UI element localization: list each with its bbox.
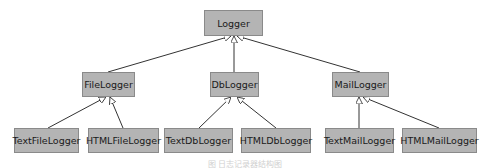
class-dblogger: DbLogger: [210, 72, 259, 97]
class-label: FileLogger: [84, 79, 133, 90]
class-label: HTMLDbLogger: [240, 135, 313, 146]
class-htmlmaillogger: HTMLMailLogger: [402, 128, 477, 153]
class-maillogger: MailLogger: [332, 72, 389, 97]
class-label: MailLogger: [334, 79, 386, 90]
class-textdblogger: TextDbLogger: [164, 128, 233, 153]
class-htmlfilelogger: HTMLFileLogger: [88, 128, 159, 153]
figure-caption: 图 日志记录器结构图: [0, 158, 490, 168]
class-textfilelogger: TextFileLogger: [14, 128, 79, 153]
edge-maillogger-logger: [237, 36, 360, 72]
class-htmldblogger: HTMLDbLogger: [241, 128, 311, 153]
class-label: TextMailLogger: [324, 135, 395, 146]
class-label: HTMLFileLogger: [86, 135, 161, 146]
class-textmaillogger: TextMailLogger: [325, 128, 394, 153]
class-filelogger: FileLogger: [82, 72, 135, 97]
edge-filelogger-logger: [108, 36, 231, 72]
class-label: DbLogger: [211, 79, 257, 90]
class-label: Logger: [217, 18, 250, 29]
class-label: TextFileLogger: [13, 135, 81, 146]
class-label: TextDbLogger: [166, 135, 231, 146]
class-logger: Logger: [204, 10, 263, 36]
class-label: HTMLMailLogger: [400, 135, 478, 146]
